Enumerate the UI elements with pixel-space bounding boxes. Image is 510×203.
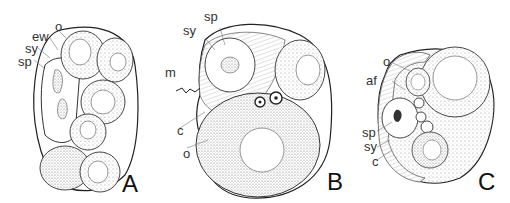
label-c-c: c	[372, 155, 379, 168]
label-c-af: af	[366, 74, 377, 87]
panel-label-c: C	[478, 170, 495, 194]
label-b-o: o	[183, 147, 190, 160]
label-a-o: o	[55, 20, 62, 33]
panel-b-drawing	[176, 24, 332, 198]
panel-label-a: A	[122, 172, 138, 196]
label-b-sy: sy	[183, 24, 196, 37]
label-b-m: m	[165, 66, 176, 79]
panel-c-drawing	[377, 47, 494, 183]
panel-a-drawing	[34, 27, 138, 192]
figure-drawing	[0, 0, 510, 203]
label-c-o: o	[383, 55, 390, 68]
panel-label-b: B	[327, 170, 343, 194]
label-a-sp: sp	[18, 55, 32, 68]
label-c-sp: sp	[362, 126, 376, 139]
label-b-c: c	[177, 124, 184, 137]
label-b-sp: sp	[204, 10, 218, 23]
label-c-sy: sy	[364, 140, 377, 153]
